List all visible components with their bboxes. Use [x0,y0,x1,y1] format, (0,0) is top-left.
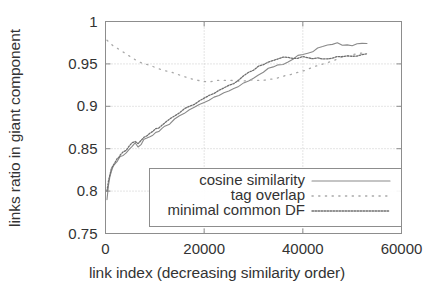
x-tick-label: 60000 [367,240,434,257]
x-tick-label: 40000 [268,240,338,257]
y-axis-title: links ratio in giant component [0,0,30,256]
x-tick-label: 0 [71,240,141,257]
x-axis-title: link index (decreasing similarity order) [0,264,434,282]
chart-figure: links ratio in giant component link inde… [0,0,434,294]
y-tick-label: 0.95 [68,55,97,72]
x-tick-label: 20000 [169,240,239,257]
y-axis-title-text: links ratio in giant component [6,29,24,227]
y-tick-label: 1 [89,13,97,30]
y-tick-label: 0.8 [77,182,98,199]
legend-entry-minimal-common-df: minimal common DF [167,201,305,218]
y-tick-label: 0.85 [68,140,97,157]
series-line-tag-overlap [107,40,367,82]
y-tick-label: 0.9 [77,97,98,114]
